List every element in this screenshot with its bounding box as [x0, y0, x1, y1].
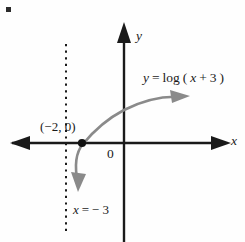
function-label-three: 3 [210, 70, 217, 85]
curve-down-arrowhead [71, 172, 86, 192]
curve-right-arrowhead [170, 90, 190, 103]
x-axis-label: x [231, 134, 237, 148]
asymptote-label-equals: = [82, 202, 89, 217]
function-label-open-paren: ( [183, 70, 188, 85]
x-intercept-point [78, 139, 86, 147]
y-axis-top-arrowhead [117, 22, 131, 43]
asymptote-equation-label: x=− 3 [73, 203, 112, 216]
asymptote-label-value: − 3 [92, 202, 109, 217]
function-label-x: x [190, 70, 196, 85]
intercept-coordinate-label: (−2, 0) [40, 120, 76, 133]
function-label-plus: + [199, 70, 207, 85]
y-axis-label: y [136, 29, 142, 43]
function-label-equals: = [152, 70, 160, 85]
function-label-y: y [143, 70, 149, 85]
log-curve [76, 97, 181, 182]
asymptote-label-x: x [73, 202, 79, 217]
x-axis-right-arrowhead [211, 136, 231, 150]
function-label-log: log [163, 70, 180, 85]
function-label-close-paren: ) [220, 70, 225, 85]
graph-canvas [0, 0, 245, 242]
x-axis-left-arrowhead [10, 136, 30, 150]
origin-label: 0 [107, 147, 114, 161]
log-function-graph-figure: y=log(x+3) (−2, 0) x=− 3 0 y x [0, 0, 245, 242]
function-label: y=log(x+3) [143, 71, 227, 85]
